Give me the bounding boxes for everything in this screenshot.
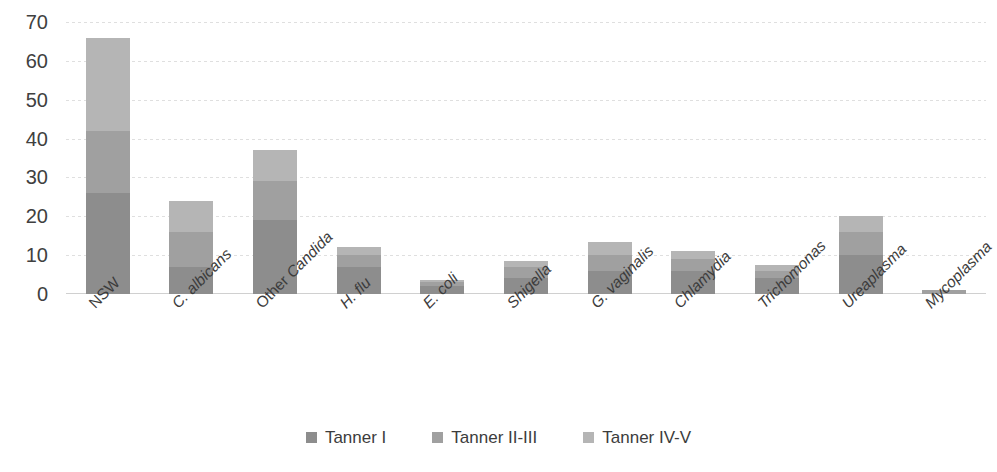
bar-segment[interactable] bbox=[839, 232, 883, 255]
bar-segment[interactable] bbox=[671, 251, 715, 259]
legend-label: Tanner IV-V bbox=[602, 429, 691, 446]
legend-item[interactable]: Tanner I bbox=[306, 429, 386, 446]
bar-segment[interactable] bbox=[839, 216, 883, 232]
y-axis-tick-label: 10 bbox=[26, 245, 48, 265]
y-axis-tick-label: 0 bbox=[37, 284, 48, 304]
y-axis-tick-label: 60 bbox=[26, 51, 48, 71]
bar-series-container bbox=[66, 22, 986, 294]
bar-slot bbox=[317, 22, 401, 294]
bar-nsw[interactable] bbox=[86, 38, 130, 294]
legend-swatch-icon bbox=[432, 432, 443, 443]
legend-item[interactable]: Tanner II-III bbox=[432, 429, 537, 446]
legend-label: Tanner I bbox=[325, 429, 386, 446]
legend-swatch-icon bbox=[583, 432, 594, 443]
legend-item[interactable]: Tanner IV-V bbox=[583, 429, 691, 446]
bar-segment[interactable] bbox=[588, 242, 632, 256]
bar-segment[interactable] bbox=[86, 131, 130, 193]
bar-slot bbox=[401, 22, 485, 294]
y-axis-tick-label: 40 bbox=[26, 129, 48, 149]
bar-slot bbox=[66, 22, 150, 294]
bar-segment[interactable] bbox=[337, 255, 381, 267]
legend-label: Tanner II-III bbox=[451, 429, 537, 446]
plot-area bbox=[66, 22, 986, 294]
bar-segment[interactable] bbox=[253, 150, 297, 181]
y-axis-tick-label: 20 bbox=[26, 206, 48, 226]
x-axis-labels: NSWC. albicansOther CandidaH. fluE. coli… bbox=[66, 294, 986, 406]
legend-swatch-icon bbox=[306, 432, 317, 443]
stacked-bar-chart: 010203040506070 NSWC. albicansOther Cand… bbox=[0, 0, 997, 472]
y-axis: 010203040506070 bbox=[0, 22, 58, 294]
bar-slot bbox=[484, 22, 568, 294]
bar-segment[interactable] bbox=[253, 181, 297, 220]
bar-segment[interactable] bbox=[86, 38, 130, 131]
y-axis-tick-label: 30 bbox=[26, 167, 48, 187]
chart-legend: Tanner ITanner II-IIITanner IV-V bbox=[0, 424, 997, 450]
bar-segment[interactable] bbox=[169, 201, 213, 232]
y-axis-tick-label: 70 bbox=[26, 12, 48, 32]
bar-segment[interactable] bbox=[337, 247, 381, 255]
y-axis-tick-label: 50 bbox=[26, 90, 48, 110]
